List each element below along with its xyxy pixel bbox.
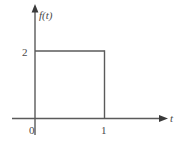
x-axis-arrow-icon <box>159 115 168 122</box>
y-axis-label: f(t) <box>39 9 53 22</box>
function-plot-figure: f(t) t 2 0 1 <box>0 0 184 146</box>
origin-label: 0 <box>29 124 35 136</box>
x-tick-label-1: 1 <box>101 124 107 136</box>
plot-canvas: f(t) t 2 0 1 <box>0 0 184 146</box>
y-axis-arrow-icon <box>32 4 39 13</box>
x-axis-label: t <box>170 112 174 124</box>
y-tick-label-2: 2 <box>22 46 28 58</box>
